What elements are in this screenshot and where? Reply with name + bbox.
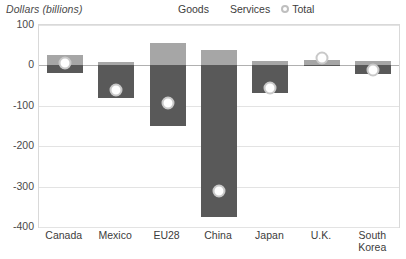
bar-services[interactable]	[150, 43, 186, 65]
y-axis-tick-label: -200	[0, 139, 34, 151]
bar-group	[245, 25, 296, 227]
total-marker[interactable]	[58, 56, 71, 69]
bar-group	[296, 25, 347, 227]
total-marker[interactable]	[315, 51, 328, 64]
page-title: Dollars (billions)	[6, 3, 82, 15]
square-light-icon	[220, 6, 227, 13]
x-axis: CanadaMexicoEU28ChinaJapanU.K.South Kore…	[38, 230, 400, 259]
y-axis-tick-label: -400	[0, 220, 34, 232]
legend-item-goods[interactable]: Goods	[168, 4, 209, 15]
legend-item-label: Services	[230, 4, 270, 15]
y-axis-tick-label: 100	[0, 18, 34, 30]
total-marker[interactable]	[264, 82, 277, 95]
y-axis-tick-label: -100	[0, 99, 34, 111]
x-axis-tick-label: EU28	[153, 230, 179, 242]
legend-item-label: Total	[292, 4, 314, 15]
total-marker[interactable]	[161, 96, 174, 109]
x-axis-tick-label: Canada	[45, 230, 82, 242]
bar-group	[90, 25, 141, 227]
x-axis-tick-label: China	[204, 230, 231, 242]
bar-goods[interactable]	[304, 65, 340, 66]
total-marker[interactable]	[212, 184, 225, 197]
plot-area	[38, 24, 400, 228]
gridline	[39, 227, 399, 228]
legend-item-label: Goods	[178, 4, 209, 15]
legend-item-services[interactable]: Services	[220, 4, 270, 15]
bar-group	[39, 25, 90, 227]
legend-item-total[interactable]: Total	[281, 4, 314, 15]
bar-services[interactable]	[201, 50, 237, 65]
y-axis-tick-label: 0	[0, 58, 34, 70]
x-axis-tick-label: Mexico	[99, 230, 132, 242]
bar-group	[142, 25, 193, 227]
x-axis-tick-label: South Korea	[358, 230, 386, 253]
chart-legend: Goods Services Total	[168, 4, 314, 15]
square-dark-icon	[168, 6, 175, 13]
total-marker[interactable]	[367, 64, 380, 77]
trade-balance-chart: Dollars (billions) Goods Services Total …	[0, 0, 406, 259]
y-axis: 1000-100-200-300-400	[0, 24, 34, 228]
bar-group	[348, 25, 399, 227]
circle-marker-icon	[281, 5, 289, 13]
x-axis-tick-label: U.K.	[311, 230, 331, 242]
y-axis-tick-label: -300	[0, 180, 34, 192]
bar-group	[193, 25, 244, 227]
total-marker[interactable]	[110, 84, 123, 97]
x-axis-tick-label: Japan	[255, 230, 284, 242]
